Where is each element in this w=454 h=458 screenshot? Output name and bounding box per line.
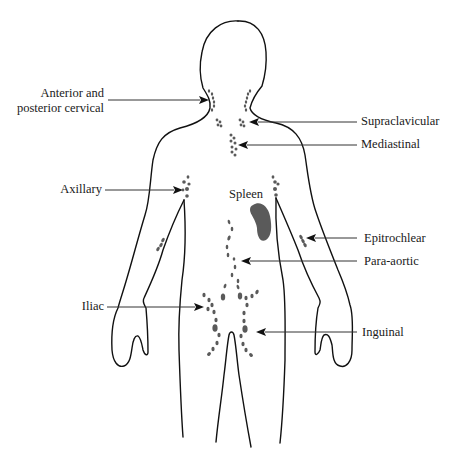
label-para-aortic: Para-aortic — [364, 254, 419, 269]
right-torso-outline — [276, 198, 285, 443]
mediastinal-nodes — [230, 134, 238, 157]
body-outline — [112, 21, 353, 447]
supraclavicular-nodes — [239, 119, 246, 128]
label-epitrochlear: Epitrochlear — [364, 231, 426, 246]
para-aortic-nodes — [226, 220, 240, 284]
label-iliac: Iliac — [60, 299, 104, 314]
mediastinal-arrowhead-icon — [238, 141, 248, 149]
label-cervical-line1: Anterior and — [14, 86, 104, 101]
inguinal-arrowhead-icon — [256, 328, 266, 336]
label-cervical-line2: posterior cervical — [14, 101, 104, 116]
epitrochlear-nodes-left — [156, 237, 166, 252]
axillary-arrowhead-icon — [173, 186, 183, 194]
iliac-nodes-left — [202, 283, 227, 356]
iliac-arrowhead-icon — [194, 303, 204, 311]
body-figure — [0, 0, 454, 458]
label-cervical: Anterior and posterior cervical — [14, 86, 104, 116]
epitrochlear-nodes-right — [299, 234, 308, 248]
axillary-nodes-right — [272, 175, 280, 197]
label-spleen: Spleen — [229, 187, 263, 202]
label-inguinal: Inguinal — [362, 325, 404, 340]
supraclavicular-arrowhead-icon — [249, 118, 259, 126]
axillary-nodes-left — [182, 175, 191, 198]
epitrochlear-arrowhead-icon — [306, 234, 316, 242]
left-body-outline — [112, 21, 238, 366]
lymph-node-diagram: Anterior and posterior cervical Supracla… — [0, 0, 454, 458]
label-mediastinal: Mediastinal — [361, 137, 420, 152]
spleen — [250, 203, 271, 241]
label-axillary: Axillary — [40, 182, 102, 197]
para-aortic-arrowhead-icon — [241, 257, 251, 265]
label-supraclavicular: Supraclavicular — [361, 114, 439, 129]
inguinal-nodes-right — [236, 284, 259, 357]
left-torso-outline — [179, 200, 185, 437]
